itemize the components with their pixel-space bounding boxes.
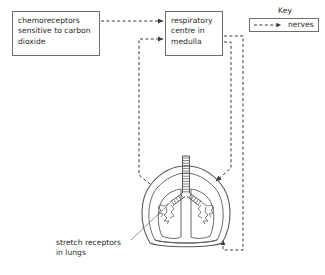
diagram-vector-layer bbox=[0, 0, 325, 275]
nerve-path-lungs-to-centre bbox=[139, 39, 163, 184]
lungs-illustration bbox=[142, 156, 230, 247]
nerve-path-centre-to-diaphragm bbox=[223, 36, 243, 250]
diagram-canvas: chemoreceptors sensitive to carbon dioxi… bbox=[0, 0, 325, 275]
nerve-path-centre-to-lungs bbox=[216, 42, 231, 181]
